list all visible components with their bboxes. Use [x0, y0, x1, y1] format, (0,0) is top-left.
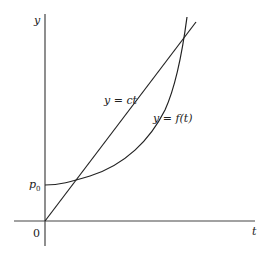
p0-label-base: p [29, 178, 36, 191]
diagram-canvas: y t 0 p0 y = ct y = f(t) [0, 0, 269, 254]
x-axis-label: t [252, 226, 256, 237]
origin-label: 0 [33, 228, 40, 239]
p0-label: p0 [29, 179, 41, 193]
p0-label-sub: 0 [36, 185, 40, 193]
diagram-plot [0, 0, 269, 254]
y-axis-label: y [34, 15, 40, 26]
curve-label: y = f(t) [153, 113, 193, 124]
line-label: y = ct [104, 95, 137, 106]
